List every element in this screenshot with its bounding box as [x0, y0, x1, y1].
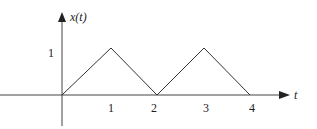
- x-tick-4: 4: [249, 101, 255, 115]
- y-tick-1: 1: [48, 46, 54, 60]
- x-tick-2: 2: [151, 101, 157, 115]
- waveform: [62, 48, 250, 95]
- signal-plot: x(t) t 1 1 2 3 4: [0, 0, 317, 129]
- y-axis-label: x(t): [69, 10, 87, 24]
- t-axis-arrow-icon: [279, 91, 290, 99]
- x-axis-label: t: [294, 88, 298, 102]
- x-tick-3: 3: [203, 101, 209, 115]
- y-axis-arrow-icon: [58, 12, 66, 22]
- x-tick-1: 1: [108, 101, 114, 115]
